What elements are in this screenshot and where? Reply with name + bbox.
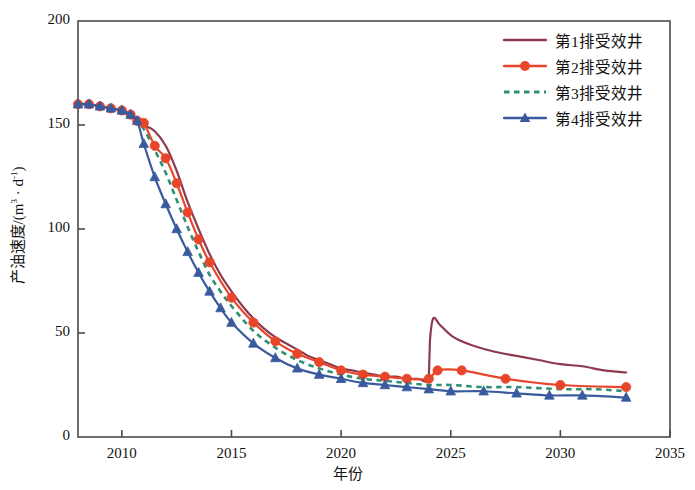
data-point-marker [172,224,182,233]
legend-item-2[interactable]: 第2排受效井 [503,53,643,79]
chart-legend: 第1排受效井第2排受效井第3排受效井第4排受效井 [503,27,643,131]
legend-label: 第3排受效井 [555,81,643,103]
legend-item-1[interactable]: 第1排受效井 [503,27,643,53]
legend-swatch-icon [503,83,547,101]
legend-label: 第1排受效井 [555,29,643,51]
data-point-marker [183,208,192,217]
x-tick-label: 2020 [311,445,371,462]
x-tick-label: 2030 [530,445,590,462]
data-point-marker [139,139,149,148]
data-point-marker [183,247,193,256]
data-point-marker [315,358,324,367]
x-tick-label: 2010 [92,445,152,462]
chart-figure: 年份 产油速度/(m3 · d-1) 201020152020202520302… [0,0,695,490]
series-line [78,104,626,391]
series-2 [73,100,630,392]
y-tick-label: 50 [10,323,70,340]
data-point-marker [172,179,181,188]
legend-label: 第2排受效井 [555,55,643,77]
data-point-marker [150,141,159,150]
series-line [78,104,626,381]
data-point-marker [457,366,466,375]
y-tick-label: 100 [10,219,70,236]
legend-label: 第4排受效井 [555,107,643,129]
data-point-marker [501,374,510,383]
data-point-marker [227,293,236,302]
series-line [78,104,626,397]
y-tick-label: 200 [10,11,70,28]
series-3 [78,104,626,391]
data-point-marker [433,366,442,375]
data-point-marker [205,258,214,267]
data-point-marker [556,380,565,389]
legend-item-4[interactable]: 第4排受效井 [503,105,643,131]
x-tick-label: 2025 [421,445,481,462]
series-1 [78,104,626,381]
data-point-marker [150,172,160,181]
legend-item-3[interactable]: 第3排受效井 [503,79,643,105]
y-tick-label: 150 [10,115,70,132]
data-point-marker [293,349,302,358]
data-point-marker [194,235,203,244]
legend-swatch-icon [503,31,547,49]
data-point-marker [249,318,258,327]
data-point-marker [161,199,171,208]
data-point-marker [424,374,433,383]
data-point-marker [161,154,170,163]
x-tick-label: 2035 [640,445,695,462]
legend-swatch-icon [503,109,547,127]
data-point-marker [271,337,280,346]
x-axis-title: 年份 [0,462,695,483]
data-point-marker [622,382,631,391]
y-tick-label: 0 [10,427,70,444]
series-line [78,104,626,387]
x-tick-label: 2015 [201,445,261,462]
legend-swatch-icon [503,57,547,75]
